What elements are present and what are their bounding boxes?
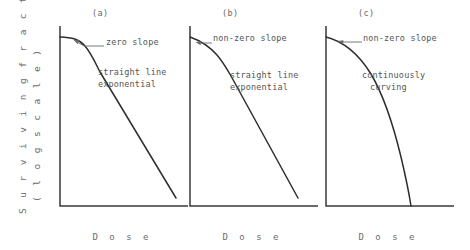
- panel-b-curve: [190, 37, 298, 198]
- panel-c-plot: [318, 20, 458, 220]
- panel-b: (b) non-zero slope straight line exponen…: [182, 8, 322, 250]
- panel-a-annotation-exponential: exponential: [98, 79, 156, 90]
- panel-c-tag: (c): [358, 8, 375, 18]
- panel-c-annotation-non-zero-slope: non-zero slope: [363, 33, 437, 44]
- panel-a-zero-slope-arrowhead: [74, 40, 80, 44]
- panel-b-tag: (b): [222, 8, 239, 18]
- panel-b-annotation-straight-line: straight line: [230, 70, 298, 81]
- panel-c-curve: [326, 37, 411, 206]
- y-axis-label-line-1: S u r v i v i n g f r a c t i o n: [17, 0, 28, 214]
- panel-a-annotation-zero-slope: zero slope: [106, 37, 159, 48]
- panel-a: (a) zero slope straight line exponential…: [52, 8, 192, 250]
- panel-a-axes: [60, 26, 188, 206]
- panel-b-axes: [190, 26, 318, 206]
- panel-b-x-axis-label: D o s e: [182, 232, 322, 242]
- survival-curve-figure: S u r v i v i n g f r a c t i o n ( l o …: [0, 0, 470, 250]
- panel-a-annotation-straight-line: straight line: [98, 67, 166, 78]
- y-axis-label: S u r v i v i n g f r a c t i o n ( l o …: [0, 0, 46, 250]
- panel-c-annotation-curving: curving: [370, 82, 407, 93]
- panel-c: (c) non-zero slope continuously curving …: [318, 8, 458, 250]
- y-axis-label-line-2: ( l o g s c a l e ): [31, 48, 42, 202]
- panel-b-annotation-non-zero-slope: non-zero slope: [213, 33, 287, 44]
- panel-b-nonzero-slope-arrowhead: [196, 41, 202, 45]
- panel-c-annotation-continuously: continuously: [362, 70, 425, 81]
- panel-c-x-axis-label: D o s e: [318, 232, 458, 242]
- panel-a-x-axis-label: D o s e: [52, 232, 192, 242]
- panel-b-annotation-exponential: exponential: [230, 82, 288, 93]
- panel-a-plot: [52, 20, 192, 220]
- panel-b-plot: [182, 20, 322, 220]
- panel-a-tag: (a): [92, 8, 109, 18]
- panel-a-curve: [60, 37, 176, 198]
